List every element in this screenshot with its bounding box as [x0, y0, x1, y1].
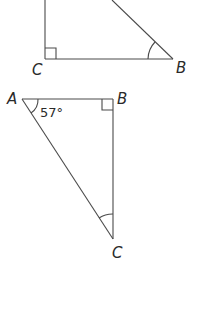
vertex-label-c: C — [112, 244, 123, 262]
angle-a-label: 57° — [40, 105, 63, 120]
triangle-1-hypotenuse — [112, 0, 173, 59]
geometry-figure: C B A B C 57° — [0, 0, 199, 323]
vertex-label-b: B — [117, 90, 127, 108]
angle-arc-icon — [148, 42, 155, 59]
angle-arc-icon — [99, 214, 113, 218]
right-angle-mark-icon — [102, 99, 113, 110]
vertex-label-c: C — [32, 61, 43, 79]
vertex-label-a: A — [6, 90, 17, 108]
triangle-1: C B — [32, 0, 186, 79]
triangle-2: A B C 57° — [6, 90, 127, 262]
vertex-label-b: B — [176, 59, 186, 77]
right-angle-mark-icon — [45, 48, 56, 59]
angle-arc-icon — [31, 99, 38, 113]
